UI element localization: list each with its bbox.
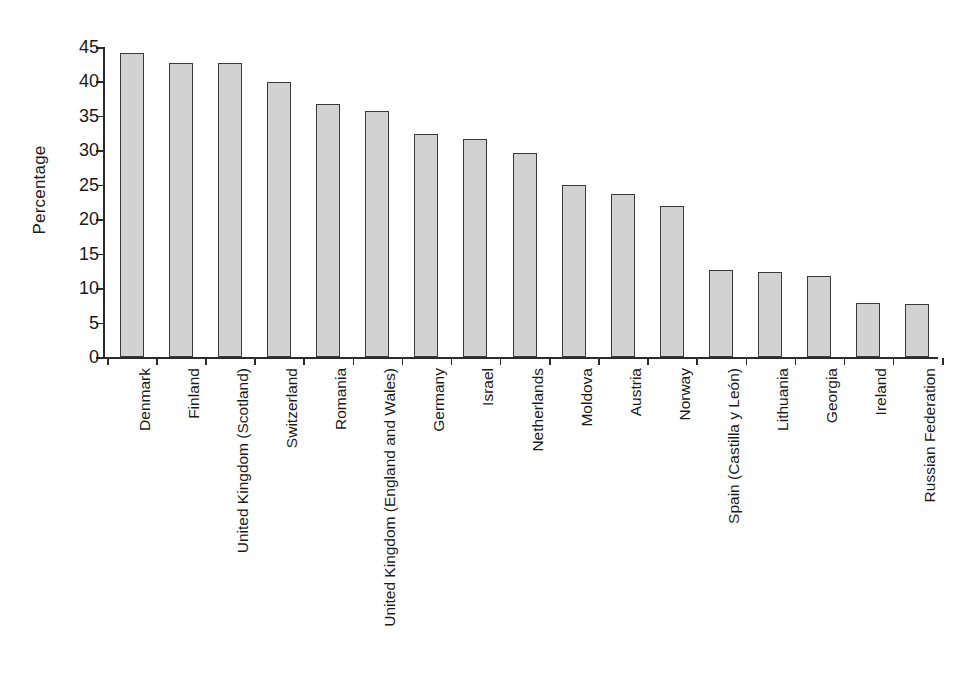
bar [169, 63, 193, 357]
y-tick-label: 25 [79, 176, 99, 194]
x-axis-label: Norway [677, 315, 693, 368]
x-axis-label-text: Romania [333, 368, 349, 430]
x-axis-label: Romania [333, 306, 349, 368]
x-axis-label: Moldova [579, 309, 595, 368]
x-tick-mark [402, 358, 404, 365]
bar [463, 139, 487, 357]
x-tick-mark [844, 358, 846, 365]
x-tick-mark [353, 358, 355, 365]
x-tick-mark [746, 358, 748, 365]
x-axis-label-text: United Kingdom (Scotland) [235, 368, 251, 553]
x-axis-label: Denmark [137, 305, 153, 368]
x-axis-label: Georgia [824, 313, 840, 368]
x-axis-label: Austria [628, 320, 644, 368]
y-axis-line [103, 47, 105, 357]
x-tick-mark [107, 358, 109, 365]
x-axis-label-text: Israel [480, 368, 496, 406]
x-tick-mark [451, 358, 453, 365]
y-tick-label: 40 [79, 72, 99, 90]
y-tick-label: 15 [79, 245, 99, 263]
x-axis-label-text: Germany [431, 368, 447, 432]
x-tick-mark [500, 358, 502, 365]
y-tick-label: 30 [79, 141, 99, 159]
x-axis-label: Netherlands [530, 284, 546, 368]
plot-area: 051015202530354045 [103, 47, 938, 357]
x-tick-mark [254, 358, 256, 365]
x-axis-label-text: Austria [628, 368, 644, 416]
x-axis-label-text: United Kingdom (England and Wales) [382, 368, 398, 627]
x-axis-label: Switzerland [284, 288, 300, 368]
x-axis-label-text: Norway [677, 368, 693, 421]
y-tick-label: 35 [79, 107, 99, 125]
x-tick-mark [647, 358, 649, 365]
x-axis-label: Israel [480, 330, 496, 368]
y-tick-label: 0 [89, 348, 99, 366]
x-axis-label: Finland [186, 317, 202, 368]
y-tick-label: 10 [79, 279, 99, 297]
x-axis-label-text: Ireland [873, 368, 889, 415]
y-tick-label: 5 [89, 314, 99, 332]
x-tick-mark [156, 358, 158, 365]
bar-chart: Percentage 051015202530354045 DenmarkFin… [0, 0, 972, 673]
x-axis-label-text: Spain (Castilla y León) [726, 368, 742, 524]
x-tick-mark [696, 358, 698, 365]
x-axis-label: Russian Federation [922, 234, 938, 368]
y-tick-label: 20 [79, 210, 99, 228]
x-axis-label: Germany [431, 304, 447, 368]
x-axis-label-text: Georgia [824, 368, 840, 423]
x-axis-label: Spain (Castilla y León) [726, 212, 742, 368]
x-axis-label-text: Denmark [137, 368, 153, 431]
x-tick-mark [598, 358, 600, 365]
x-axis-label: Ireland [873, 321, 889, 368]
y-axis-title: Percentage [30, 90, 50, 290]
x-axis-label: United Kingdom (England and Wales) [382, 109, 398, 368]
x-tick-mark [942, 358, 944, 365]
y-tick-label: 45 [79, 38, 99, 56]
x-axis-label-text: Moldova [579, 368, 595, 427]
x-axis-label-text: Russian Federation [922, 368, 938, 502]
x-tick-mark [795, 358, 797, 365]
x-axis-label: Lithuania [775, 305, 791, 368]
x-axis-label-text: Netherlands [530, 368, 546, 452]
x-axis-label-text: Switzerland [284, 368, 300, 448]
x-axis-label-text: Lithuania [775, 368, 791, 431]
x-tick-mark [303, 358, 305, 365]
x-tick-mark [893, 358, 895, 365]
x-tick-mark [205, 358, 207, 365]
x-axis-label-text: Finland [186, 368, 202, 419]
x-axis-line [103, 357, 938, 359]
x-axis-label: United Kingdom (Scotland) [235, 183, 251, 368]
x-tick-mark [549, 358, 551, 365]
